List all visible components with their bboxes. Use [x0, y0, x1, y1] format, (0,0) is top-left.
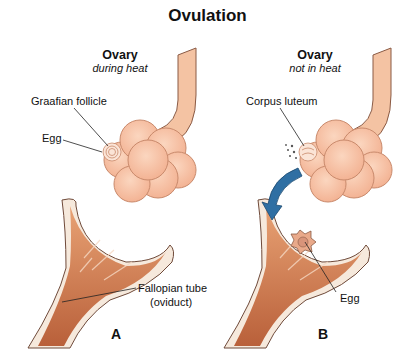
- panel-a-title: Ovary: [60, 48, 180, 62]
- label-fallopian-tube: Fallopian tube: [138, 282, 207, 294]
- label-egg-a: Egg: [42, 132, 62, 144]
- graafian-follicle: [103, 143, 121, 161]
- corpus-luteum: [299, 143, 317, 161]
- label-oviduct: (oviduct): [150, 296, 192, 308]
- panel-b-title: Ovary: [255, 48, 375, 62]
- panel-b-header: Ovary not in heat: [255, 48, 375, 74]
- label-graafian-follicle: Graafian follicle: [31, 95, 107, 107]
- panel-b-subtitle: not in heat: [255, 62, 375, 74]
- panel-b-fallopian-tube: [224, 199, 370, 348]
- panel-a-fallopian-tube: [28, 199, 174, 348]
- panel-a-subtitle: during heat: [60, 62, 180, 74]
- panel-a-letter: A: [111, 326, 121, 342]
- egg-movement-arrow: [262, 168, 302, 220]
- label-corpus-luteum: Corpus luteum: [246, 95, 318, 107]
- panel-a-header: Ovary during heat: [60, 48, 180, 74]
- panel-b-letter: B: [318, 326, 328, 342]
- released-fluid-droplets: [285, 144, 297, 159]
- label-egg-b: Egg: [340, 292, 360, 304]
